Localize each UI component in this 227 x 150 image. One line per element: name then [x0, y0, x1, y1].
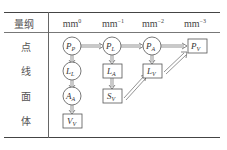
edge-pl-pa [121, 43, 144, 49]
node-PA: PA [143, 37, 161, 55]
edge-pl-la [109, 55, 115, 64]
node-LL: LL [63, 62, 81, 80]
node-AA: AA [63, 87, 81, 105]
edge-aa-vv [69, 105, 75, 114]
nodes: PP PL PA PV LL LA LV AA [63, 37, 207, 128]
node-VV: VV [63, 114, 82, 128]
edge-lv-pv [164, 52, 187, 74]
node-LV: LV [143, 64, 162, 78]
edge-pp-pl [80, 43, 104, 49]
stereology-diagram: PP PL PA PV LL LA LV AA [0, 0, 227, 150]
node-PL: PL [103, 37, 121, 55]
node-PP: PP [63, 37, 81, 55]
node-PV: PV [188, 39, 207, 53]
edge-pa-lv [149, 55, 155, 64]
node-SV: SV [103, 89, 122, 103]
edge-la-sv [109, 78, 115, 89]
edge-pa-pv [161, 43, 187, 49]
node-LA: LA [103, 64, 122, 78]
edge-sv-lv [124, 75, 146, 100]
edges [69, 43, 187, 114]
